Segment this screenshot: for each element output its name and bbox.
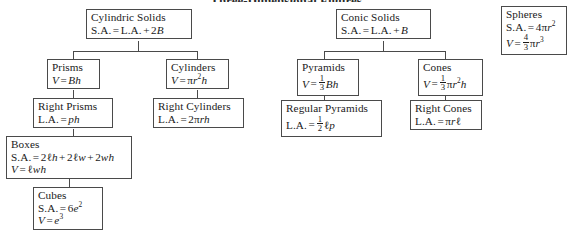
node-title-prisms: Prisms — [52, 61, 95, 74]
node-formula-cones-v: V=13πr2h — [423, 74, 478, 93]
node-cubes: Cubes S.A.=6e2 V=e3 — [33, 187, 103, 230]
node-formula-conic-solids-sa: S.A.=L.A.+B — [341, 24, 426, 37]
node-right-prisms: Right Prisms L.A.=ph — [33, 98, 113, 128]
connector-prisms-to-right-prisms — [73, 90, 74, 98]
node-boxes: Boxes S.A.=2ℓh+2ℓw+2wh V=ℓwh — [6, 136, 132, 179]
node-formula-regular-pyramids-la: L.A.=12ℓp — [286, 115, 377, 134]
connector-cylindric-stem — [138, 41, 139, 51]
node-formula-spheres-v: V=43πr3 — [506, 33, 562, 52]
node-title-cubes: Cubes — [38, 189, 98, 202]
node-title-boxes: Boxes — [11, 138, 127, 151]
node-prisms: Prisms V=Bh — [47, 59, 100, 89]
node-formula-prisms-v: V=Bh — [52, 74, 95, 87]
node-pyramids: Pyramids V=13Bh — [297, 59, 359, 96]
node-formula-boxes-v: V=ℓwh — [11, 163, 127, 176]
node-title-right-prisms: Right Prisms — [38, 100, 108, 113]
node-title-right-cylinders: Right Cylinders — [158, 100, 239, 113]
node-formula-spheres-sa: S.A.=4πr2 — [506, 21, 562, 34]
connector-conic-stem — [383, 41, 384, 51]
connector-cylinders-to-right-cylinders — [197, 90, 198, 98]
node-formula-right-prisms-la: L.A.=ph — [38, 113, 108, 126]
node-title-regular-pyramids: Regular Pyramids — [286, 102, 377, 115]
connector-boxes-to-cubes — [69, 179, 70, 187]
node-cylindric-solids: Cylindric Solids S.A.=L.A.+2B — [86, 9, 192, 39]
node-right-cylinders: Right Cylinders L.A.=2πrh — [153, 98, 244, 128]
node-regular-pyramids: Regular Pyramids L.A.=12ℓp — [281, 100, 382, 137]
node-title-cones: Cones — [423, 61, 478, 74]
three-dimensional-figures-diagram: Three-Dimensional Figures Cylindric Soli… — [0, 0, 572, 235]
connector-to-prisms — [73, 51, 74, 59]
node-title-cylindric-solids: Cylindric Solids — [91, 11, 187, 24]
node-spheres: Spheres S.A.=4πr2 V=43πr3 — [501, 6, 567, 55]
connector-to-cones — [445, 51, 446, 59]
node-conic-solids: Conic Solids S.A.=L.A.+B — [336, 9, 431, 39]
node-cones: Cones V=13πr2h — [418, 59, 483, 96]
node-formula-cubes-sa: S.A.=6e2 — [38, 202, 98, 215]
connector-to-cylinders — [197, 51, 198, 59]
page-title: Three-Dimensional Figures — [0, 0, 572, 2]
node-formula-right-cones-la: L.A.=πrℓ — [415, 115, 477, 128]
node-formula-pyramids-v: V=13Bh — [302, 74, 354, 93]
connector-to-pyramids — [324, 51, 325, 59]
node-title-right-cones: Right Cones — [415, 102, 477, 115]
connector-cylindric-bus — [73, 51, 198, 52]
node-formula-cylindric-solids-sa: S.A.=L.A.+2B — [91, 24, 187, 37]
node-right-cones: Right Cones L.A.=πrℓ — [410, 100, 482, 130]
connector-conic-bus — [324, 51, 446, 52]
node-formula-cylinders-v: V=πr2h — [171, 74, 224, 87]
node-formula-right-cylinders-la: L.A.=2πrh — [158, 113, 239, 126]
node-title-pyramids: Pyramids — [302, 61, 354, 74]
node-title-conic-solids: Conic Solids — [341, 11, 426, 24]
connector-right-prisms-to-boxes — [73, 129, 74, 136]
node-formula-cubes-v: V=e3 — [38, 214, 98, 227]
node-cylinders: Cylinders V=πr2h — [166, 59, 229, 89]
node-formula-boxes-sa: S.A.=2ℓh+2ℓw+2wh — [11, 151, 127, 164]
